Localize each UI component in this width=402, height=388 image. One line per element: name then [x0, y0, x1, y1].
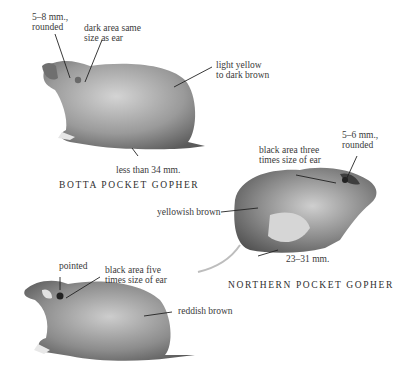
- botta-ear-patch-callout: dark area same size as ear: [84, 24, 141, 43]
- northern-hind-foot-callout: 23–31 mm.: [286, 255, 329, 265]
- northern-species-title: NORTHERN POCKET GOPHER: [228, 280, 394, 290]
- northern-ear-callout: 5–6 mm., rounded: [342, 131, 378, 150]
- northern-color-callout: yellowish brown: [157, 208, 221, 218]
- reddish-ear-callout: pointed: [59, 262, 88, 272]
- botta-hind-foot-callout: less than 34 mm.: [116, 166, 180, 176]
- northern-ear-patch-callout: black area three times size of ear: [259, 146, 321, 165]
- gopher-illustrations: [0, 0, 402, 388]
- reddish-ear-patch-callout: black area five times size of ear: [105, 266, 167, 285]
- botta-gopher-figure: [42, 61, 205, 149]
- botta-ear-callout: 5–8 mm., rounded: [32, 13, 68, 32]
- botta-species-title: BOTTA POCKET GOPHER: [59, 180, 199, 190]
- reddish-color-callout: reddish brown: [178, 307, 233, 317]
- reddish-gopher-figure: [24, 281, 195, 361]
- botta-color-callout: light yellow to dark brown: [216, 61, 269, 80]
